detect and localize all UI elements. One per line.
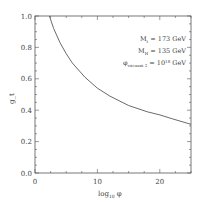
annotation-higgs-mass: MH = 135 GeV	[138, 47, 186, 56]
annotation-vacuum-scale: φvacuum 2 = 1018 GeV	[123, 59, 186, 68]
svg-text:0.2: 0.2	[21, 138, 32, 146]
chart: 0.00.20.40.60.81.0 01020 g_t log10φ Mt =…	[0, 0, 202, 203]
x-tick-labels: 01020	[33, 178, 164, 186]
annotation-top-mass: Mt = 173 GeV	[140, 35, 186, 44]
svg-text:1.0: 1.0	[21, 13, 32, 21]
svg-text:0.0: 0.0	[21, 170, 32, 178]
x-axis-label: log10φ	[98, 190, 122, 199]
svg-text:0.4: 0.4	[21, 107, 33, 115]
svg-text:0: 0	[33, 178, 37, 186]
y-tick-labels: 0.00.20.40.60.81.0	[21, 13, 33, 178]
svg-text:0.8: 0.8	[21, 44, 32, 52]
svg-text:0.6: 0.6	[21, 75, 33, 83]
svg-text:20: 20	[155, 178, 164, 186]
svg-text:10: 10	[93, 178, 102, 186]
data-curve	[49, 16, 191, 124]
annotation-box: Mt = 173 GeV MH = 135 GeV φvacuum 2 = 10…	[123, 35, 186, 68]
y-axis-label: g_t	[8, 93, 16, 104]
